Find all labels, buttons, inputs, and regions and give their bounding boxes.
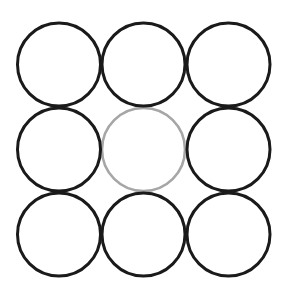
circle-r2-c1 [18,108,101,191]
circle-r1-c3 [187,23,270,106]
circle-r2-c3 [187,108,270,191]
circle-r1-c1 [18,23,101,106]
circle-grid-svg [0,0,287,300]
circle-r3-c3 [187,193,270,276]
circle-grid-diagram [0,0,287,300]
circle-r3-c1 [18,193,101,276]
circle-r3-c2 [102,193,185,276]
highlighted-circle-r2-c2 [102,108,185,191]
circle-r1-c2 [102,23,185,106]
